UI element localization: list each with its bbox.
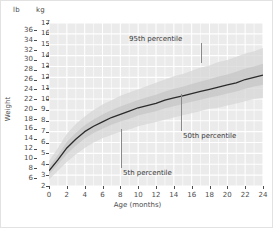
y-tick-mark-lb [34,109,37,110]
x-tick-label: 22 [241,192,250,199]
annotation-5th-percentile: 5th percentile [123,169,172,177]
y-tick-mark-lb [34,30,37,31]
y-tick-mark-kg [46,153,49,154]
y-tick-mark-kg [46,34,49,35]
x-tick-label: 6 [100,192,104,199]
growth-chart: lb kg Weight 681012141618202224262830323… [0,0,273,228]
y-tick-label-lb: 14 [24,135,33,142]
y-tick-mark-lb [34,168,37,169]
y-tick-mark-kg [46,164,49,165]
median-growth-curve [49,23,263,186]
x-tick-mark [156,186,157,189]
y-tick-mark-lb [34,119,37,120]
annotation-leader-line [201,43,202,63]
y-tick-mark-lb [34,89,37,90]
annotation-95th-percentile: 95th percentile [129,35,182,43]
x-tick-mark [245,186,246,189]
y-tick-mark-lb [34,178,37,179]
y-tick-label-lb: 8 [29,165,33,172]
x-tick-mark [138,186,139,189]
y-tick-mark-lb [34,129,37,130]
y-tick-label-lb: 24 [24,86,33,93]
y-tick-label-kg: 4 [41,161,45,168]
x-tick-mark [192,186,193,189]
y-tick-label-lb: 26 [24,76,33,83]
x-tick-label: 8 [118,192,122,199]
x-tick-label: 2 [65,192,69,199]
y-tick-mark-kg [46,45,49,46]
y-tick-mark-lb [34,80,37,81]
x-tick-label: 16 [187,192,196,199]
y-tick-mark-kg [46,56,49,57]
x-tick-label: 4 [82,192,86,199]
y-tick-label-kg: 2 [41,183,45,190]
y-tick-label-kg: 9 [41,106,45,113]
y-tick-mark-kg [46,77,49,78]
y-tick-label-lb: 36 [24,27,33,34]
y-tick-label-lb: 32 [24,47,33,54]
y-tick-label-lb: 34 [24,37,33,44]
y-tick-mark-kg [46,186,49,187]
y-tick-mark-kg [46,175,49,176]
y-tick-label-lb: 30 [24,56,33,63]
y-tick-mark-kg [46,88,49,89]
y-tick-label-kg: 8 [41,117,45,124]
x-axis-title: Age (months) [1,201,273,209]
y-axis-unit-lb: lb [13,6,20,14]
y-axis-title: Weight [4,84,12,134]
x-tick-mark [49,186,50,189]
annotation-leader-line [121,129,122,168]
y-tick-mark-lb [34,60,37,61]
y-tick-mark-lb [34,139,37,140]
y-tick-label-lb: 22 [24,96,33,103]
y-tick-label-lb: 6 [29,175,33,182]
y-tick-mark-lb [34,158,37,159]
annotation-leader-line [181,94,182,131]
y-tick-mark-lb [34,99,37,100]
y-tick-label-lb: 20 [24,106,33,113]
y-tick-mark-kg [46,66,49,67]
y-tick-mark-kg [46,143,49,144]
median-curve-line [49,75,263,171]
x-tick-label: 0 [47,192,51,199]
y-tick-label-lb: 16 [24,125,33,132]
x-tick-label: 10 [134,192,143,199]
x-tick-mark [103,186,104,189]
x-tick-mark [263,186,264,189]
y-tick-mark-kg [46,121,49,122]
x-tick-mark [120,186,121,189]
x-tick-label: 20 [223,192,232,199]
x-tick-label: 24 [259,192,268,199]
x-tick-mark [85,186,86,189]
y-tick-label-lb: 28 [24,66,33,73]
x-tick-label: 14 [169,192,178,199]
y-tick-mark-lb [34,50,37,51]
x-tick-mark [174,186,175,189]
y-tick-label-kg: 7 [41,128,45,135]
y-tick-mark-kg [46,23,49,24]
y-tick-label-kg: 6 [41,139,45,146]
y-tick-label-kg: 5 [41,150,45,157]
y-tick-label-lb: 10 [24,155,33,162]
x-tick-label: 18 [205,192,214,199]
x-tick-mark [67,186,68,189]
x-tick-mark [227,186,228,189]
y-tick-mark-lb [34,40,37,41]
y-tick-label-kg: 3 [41,172,45,179]
y-tick-mark-lb [34,70,37,71]
annotation-50th-percentile: 50th percentile [183,132,236,140]
y-tick-mark-kg [46,99,49,100]
plot-area [49,23,263,186]
x-tick-mark [210,186,211,189]
y-tick-label-lb: 12 [24,145,33,152]
y-tick-mark-lb [34,149,37,150]
x-tick-label: 12 [152,192,161,199]
y-tick-mark-kg [46,132,49,133]
y-tick-mark-kg [46,110,49,111]
y-axis-ticks-lb: 681012141618202224262830323436 [15,23,33,186]
y-axis-unit-kg: kg [36,6,45,14]
y-tick-label-lb: 18 [24,116,33,123]
